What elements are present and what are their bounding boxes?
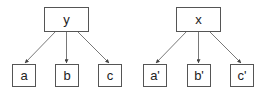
node-a: a xyxy=(13,65,36,87)
node-b-prime: b' xyxy=(188,65,211,87)
node-b: b xyxy=(56,65,79,87)
node-label: c xyxy=(107,68,114,83)
node-c: c xyxy=(99,65,122,87)
tree-1: y a b c xyxy=(13,8,122,87)
node-root-y: y xyxy=(45,8,89,32)
node-label: c' xyxy=(238,68,247,83)
edge-x-a-prime xyxy=(156,31,187,63)
node-root-x: x xyxy=(177,8,221,32)
tree-diagram: y a b c x a' b' xyxy=(0,0,270,95)
node-label: a' xyxy=(150,68,160,83)
node-c-prime: c' xyxy=(231,65,254,87)
tree-2: x a' b' c' xyxy=(144,8,254,87)
node-label: y xyxy=(63,12,70,27)
node-a-prime: a' xyxy=(144,65,167,87)
node-label: x xyxy=(195,12,202,27)
node-label: b' xyxy=(194,68,204,83)
node-label: a xyxy=(20,68,28,83)
node-label: b xyxy=(63,68,70,83)
edge-y-c xyxy=(77,31,109,63)
edge-y-a xyxy=(25,31,56,63)
edge-x-c-prime xyxy=(209,31,241,63)
